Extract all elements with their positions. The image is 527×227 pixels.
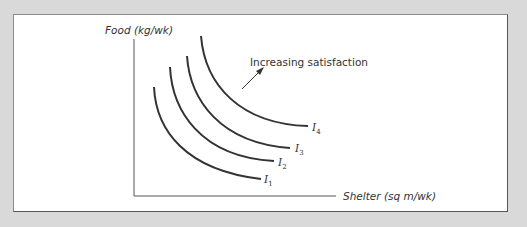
indifference-curve-2 — [170, 67, 274, 161]
curve-label-i4: I4 — [312, 122, 321, 136]
x-axis-label: Shelter (sq m/wk) — [343, 191, 436, 202]
curve-label-i1: I1 — [264, 174, 273, 188]
curve-label-i2: I2 — [278, 157, 287, 171]
indifference-curve-1 — [154, 87, 261, 179]
indifference-curve-4 — [201, 36, 308, 126]
curve-label-i3: I3 — [295, 143, 304, 157]
indifference-curve-3 — [187, 56, 290, 148]
indifference-curve-plot — [0, 0, 527, 227]
y-axis-label: Food (kg/wk) — [105, 25, 173, 36]
increasing-satisfaction-label: Increasing satisfaction — [250, 57, 368, 68]
